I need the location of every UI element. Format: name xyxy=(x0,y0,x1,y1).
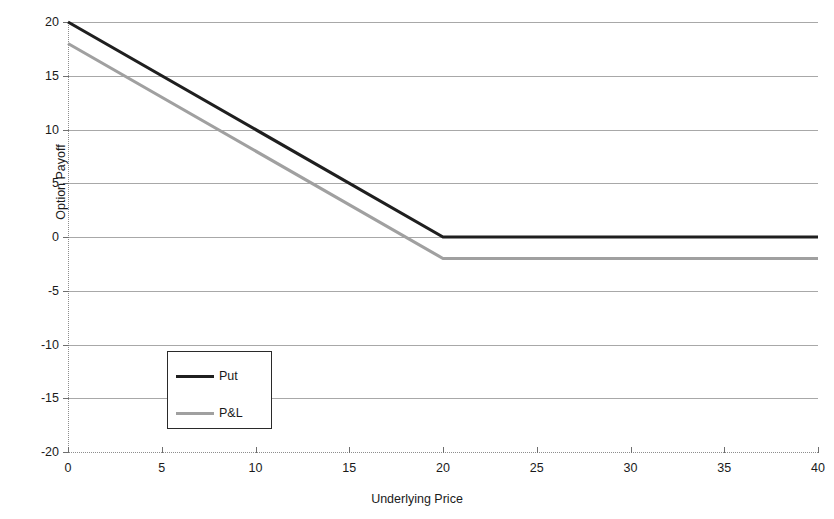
series-line-put xyxy=(68,22,818,237)
legend-item-p-l: P&L xyxy=(176,405,243,421)
y-tick-label: 0 xyxy=(11,231,59,244)
x-tick-label: 35 xyxy=(704,462,744,475)
x-tick-label: 5 xyxy=(142,462,182,475)
legend-label: P&L xyxy=(219,407,243,420)
y-tick-label: -20 xyxy=(11,446,59,459)
y-tick-label: -5 xyxy=(11,285,59,298)
y-tick-label: -15 xyxy=(11,392,59,405)
y-axis-title: Option Payoff xyxy=(54,117,68,247)
plot-area: PutP&L xyxy=(68,22,818,452)
x-tick-40 xyxy=(818,447,819,453)
chart-legend: PutP&L xyxy=(167,351,272,429)
x-tick-label: 0 xyxy=(48,462,88,475)
legend-swatch-icon xyxy=(176,375,214,378)
series-line-p-l xyxy=(68,44,818,259)
y-tick-label: 5 xyxy=(11,177,59,190)
x-tick-label: 40 xyxy=(798,462,834,475)
legend-label: Put xyxy=(219,370,238,383)
legend-swatch-icon xyxy=(176,412,214,415)
legend-item-put: Put xyxy=(176,368,238,384)
y-tick-label: 20 xyxy=(11,16,59,29)
x-tick-label: 15 xyxy=(329,462,369,475)
y-tick-label: 15 xyxy=(11,70,59,83)
x-tick-label: 20 xyxy=(423,462,463,475)
x-tick-label: 10 xyxy=(236,462,276,475)
x-axis-title: Underlying Price xyxy=(0,492,834,506)
x-tick-label: 30 xyxy=(611,462,651,475)
y-tick-label: -10 xyxy=(11,339,59,352)
chart-container: PutP&L 20151050-5-10-15-20 0510152025303… xyxy=(0,0,834,519)
x-tick-label: 25 xyxy=(517,462,557,475)
y-tick-label: 10 xyxy=(11,124,59,137)
